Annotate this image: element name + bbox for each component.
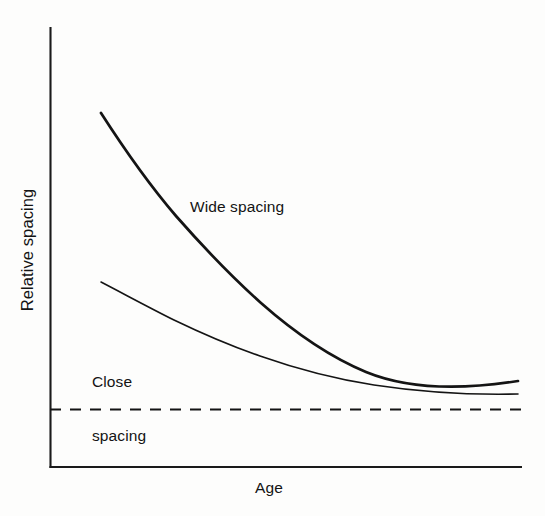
series-line-wide-spacing [101,113,518,387]
x-axis-title: Age [255,479,283,497]
annotation-close-spacing-line2: spacing [92,427,146,445]
annotation-wide-spacing: Wide spacing [190,198,284,216]
annotation-close-spacing: Close spacing [92,336,146,482]
chart-plot-area [0,0,545,516]
figure-container: Relative spacing Age Wide spacing Close … [0,0,545,516]
series-line-close-spacing [101,282,518,394]
y-axis-title: Relative spacing [10,150,46,350]
annotation-close-spacing-line1: Close [92,373,146,391]
y-axis-title-text: Relative spacing [18,189,37,312]
